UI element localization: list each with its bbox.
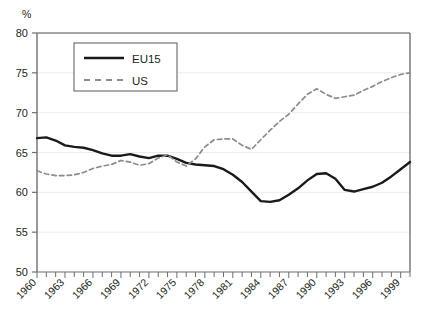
- x-tick-label-group: 1987: [265, 276, 290, 301]
- x-tick-label: 1990: [293, 276, 318, 301]
- x-tick-label-group: 1975: [153, 276, 178, 301]
- x-tick-label: 1966: [69, 276, 94, 301]
- legend-label-us: US: [132, 75, 148, 87]
- x-tick-label-group: 1984: [237, 276, 262, 301]
- x-tick-label-group: 1993: [321, 276, 346, 301]
- x-tick-label: 1999: [377, 276, 402, 301]
- line-chart: 50556065707580%1960196319661969197219751…: [0, 0, 444, 327]
- x-tick-label-group: 1969: [97, 276, 122, 301]
- y-tick-label: 60: [16, 186, 28, 198]
- x-tick-label: 1984: [237, 276, 262, 301]
- x-tick-label: 1996: [349, 276, 374, 301]
- x-tick-label-group: 1966: [69, 276, 94, 301]
- x-tick-label: 1972: [125, 276, 150, 301]
- y-tick-label: 50: [16, 266, 28, 278]
- y-tick-label: 65: [16, 147, 28, 159]
- x-tick-label-group: 1996: [349, 276, 374, 301]
- x-tick-label-group: 1978: [181, 276, 206, 301]
- x-tick-label: 1975: [153, 276, 178, 301]
- y-tick-label: 75: [16, 67, 28, 79]
- chart-container: 50556065707580%1960196319661969197219751…: [0, 0, 444, 327]
- x-tick-label-group: 1972: [125, 276, 150, 301]
- x-tick-label: 1963: [41, 276, 66, 301]
- y-axis-unit-label: %: [22, 8, 31, 20]
- x-tick-label: 1987: [265, 276, 290, 301]
- y-tick-label: 80: [16, 27, 28, 39]
- x-tick-label-group: 1963: [41, 276, 66, 301]
- x-tick-label: 1993: [321, 276, 346, 301]
- y-tick-label: 55: [16, 226, 28, 238]
- x-tick-label: 1981: [209, 276, 234, 301]
- legend-box: [74, 43, 177, 91]
- x-tick-label-group: 1960: [13, 276, 38, 301]
- y-tick-label: 70: [16, 107, 28, 119]
- x-tick-label: 1960: [13, 276, 38, 301]
- x-tick-label: 1969: [97, 276, 122, 301]
- x-tick-label-group: 1981: [209, 276, 234, 301]
- legend-label-eu15: EU15: [132, 53, 161, 65]
- x-tick-label: 1978: [181, 276, 206, 301]
- x-tick-label-group: 1999: [377, 276, 402, 301]
- x-tick-label-group: 1990: [293, 276, 318, 301]
